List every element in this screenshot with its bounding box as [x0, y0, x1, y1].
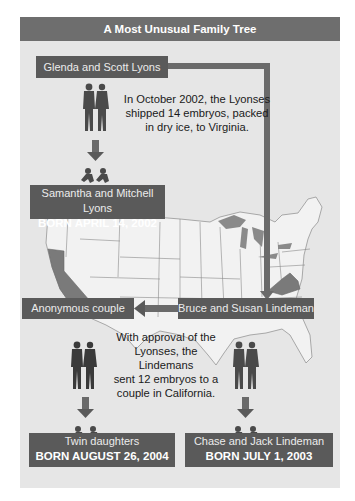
node-chase-jack: Chase and Jack Lindeman BORN JULY 1, 200… [185, 433, 333, 467]
connector-line [168, 63, 270, 69]
node-glenda-scott: Glenda and Scott Lyons [36, 56, 168, 78]
arrow-down-icon [87, 152, 104, 162]
node-samantha-mitchell: Samantha and Mitchell Lyons BORN APRIL 1… [30, 185, 165, 219]
arrow-down-icon [237, 409, 254, 419]
arrow-down-icon [77, 409, 94, 419]
couple-silhouette-icon [70, 341, 98, 391]
node-anonymous-couple: Anonymous couple [22, 298, 134, 319]
couple-silhouette-icon [82, 83, 110, 133]
node-bruce-susan: Bruce and Susan Lindeman [178, 298, 314, 319]
approval-caption: With approval of the Lyonses, the Lindem… [106, 330, 226, 400]
diagram-frame: A Most Unusual Family Tree Glenda and Sc… [20, 17, 340, 488]
node-label: Glenda and Scott Lyons [43, 61, 160, 73]
baby-twins-icon [80, 167, 112, 183]
node-twin-daughters: Twin daughters BORN AUGUST 26, 2004 [29, 433, 175, 467]
arrow-left-icon [134, 300, 145, 317]
shipment-caption: In October 2002, the Lyonses shipped 14 … [120, 92, 274, 134]
couple-silhouette-icon [232, 341, 260, 391]
us-map [20, 17, 340, 488]
